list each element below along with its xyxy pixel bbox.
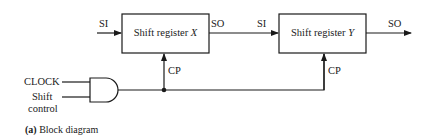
clock-pulse-bus	[118, 54, 324, 90]
so-x-label: SO	[211, 18, 224, 30]
caption-tag: (a)	[25, 124, 37, 135]
block-x-var: X	[191, 27, 197, 38]
clock-label: CLOCK	[24, 76, 60, 88]
si-y-label: SI	[257, 18, 266, 30]
shift-control-label-2: control	[28, 103, 58, 115]
si-input-label: SI	[99, 18, 108, 30]
shift-control-label-1: Shift	[32, 91, 52, 103]
and-gate	[90, 78, 118, 102]
shift-register-y-label: Shift register Y	[279, 27, 366, 39]
block-y-text: Shift register	[291, 27, 346, 38]
shift-register-x-label: Shift register X	[122, 27, 209, 39]
so-output-label: SO	[388, 18, 401, 30]
junction-dot	[162, 88, 167, 93]
block-y-var: Y	[348, 27, 354, 38]
block-x-text: Shift register	[134, 27, 189, 38]
cp-y-label: CP	[328, 65, 341, 77]
figure-caption: (a) Block diagram	[25, 124, 98, 135]
cp-x-label: CP	[168, 65, 181, 77]
caption-text: Block diagram	[39, 124, 98, 135]
